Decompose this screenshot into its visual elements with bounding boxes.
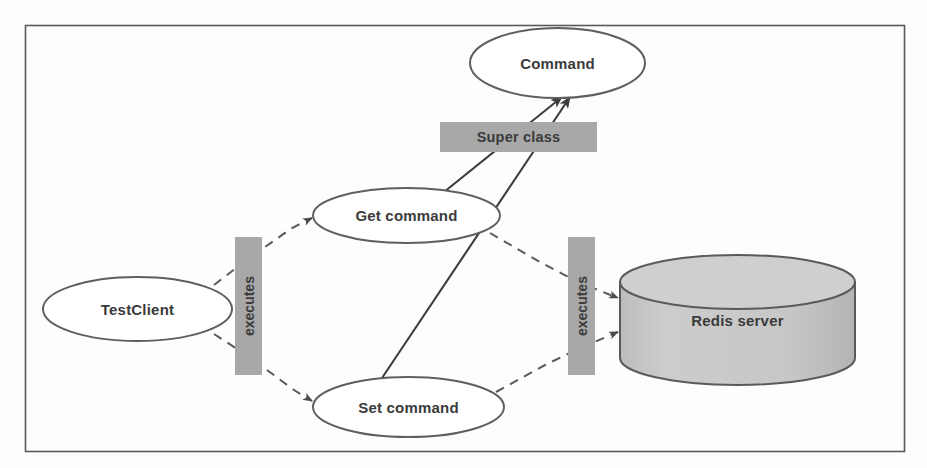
diagram-canvas: Command Get command Set command TestClie…: [0, 0, 927, 468]
edge-label-box-super-class: [440, 122, 597, 152]
edge-client-to-get: [214, 218, 312, 285]
node-get-command[interactable]: [313, 188, 500, 243]
node-redis-server[interactable]: [620, 255, 855, 385]
edge-set-to-redis: [496, 332, 618, 392]
cylinder-top-ellipse: [620, 255, 855, 309]
node-test-client[interactable]: [43, 277, 232, 341]
node-command[interactable]: [470, 28, 645, 98]
edge-get-to-redis: [490, 233, 618, 298]
diagram-svg: [0, 0, 927, 468]
edge-label-box-executes-right: [568, 237, 595, 375]
node-set-command[interactable]: [313, 377, 504, 437]
edge-client-to-set: [214, 334, 312, 401]
edge-label-box-executes-left: [235, 237, 262, 375]
